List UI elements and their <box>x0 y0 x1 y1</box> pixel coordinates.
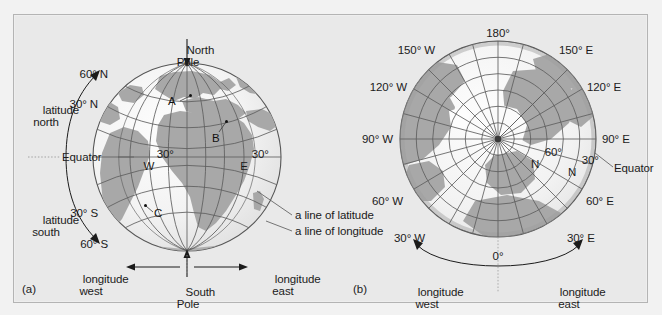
meridian-label-90e: 90° E <box>602 133 630 146</box>
lon-label-30e: 30°E <box>227 135 261 185</box>
longitude-west-label-b: longitudewest <box>393 273 461 315</box>
point-marker-c-dot <box>144 204 147 207</box>
longitude-west-label-a: longitudewest <box>58 260 124 310</box>
point-marker-b-dot <box>225 120 228 123</box>
panel-b-id: (b) <box>353 283 367 295</box>
meridian-label-60e: 60° E <box>586 195 614 208</box>
parallel-label-60n: 60°N <box>520 133 550 183</box>
panel-a-globe-side-view: NorthPole SouthPole 60° N 30° N Equator … <box>14 15 345 302</box>
point-marker-b-label: B <box>212 132 220 144</box>
latitude-south-arc-label: latitudesouth <box>18 201 74 251</box>
north-pole-label: NorthPole <box>157 31 219 81</box>
meridian-label-0: 0° <box>482 250 514 263</box>
point-marker-a-label: A <box>168 95 176 107</box>
latitude-north-arc-label: latitudenorth <box>18 91 74 141</box>
lat-label-60n: 60° N <box>58 68 108 81</box>
meridian-label-120w: 120° W <box>355 81 407 94</box>
meridian-label-60w: 60° W <box>355 195 403 208</box>
figure-frame: NorthPole SouthPole 60° N 30° N Equator … <box>13 14 648 303</box>
lon-label-30w: 30°W <box>132 135 166 185</box>
meridian-label-180: 180° <box>478 27 518 40</box>
figure-canvas: NorthPole SouthPole 60° N 30° N Equator … <box>0 0 662 315</box>
south-pole-label: SouthPole <box>157 273 219 315</box>
meridian-label-150w: 150° W <box>383 44 435 57</box>
meridian-label-30w: 30° W <box>375 232 425 245</box>
parallel-label-equator: Equator <box>614 162 654 175</box>
polar-center-point <box>495 136 501 142</box>
meridian-label-90w: 90° W <box>345 133 393 146</box>
meridian-label-120e: 120° E <box>587 81 621 94</box>
point-marker-a-dot <box>189 94 192 97</box>
lat-label-equator: Equator <box>62 151 102 164</box>
longitude-east-label-b: longitudeeast <box>535 273 603 315</box>
longitude-east-label-a: longitudeeast <box>250 260 316 310</box>
meridian-label-150e: 150° E <box>559 44 593 57</box>
point-marker-c-label: C <box>154 207 162 219</box>
panel-b-polar-projection: 180° 150° W 150° E 120° W 120° E 90° W 9… <box>345 15 662 302</box>
panel-a-id: (a) <box>22 283 36 295</box>
parallel-label-30n: 30°N <box>557 141 587 191</box>
meridian-label-30e: 30° E <box>567 232 595 245</box>
